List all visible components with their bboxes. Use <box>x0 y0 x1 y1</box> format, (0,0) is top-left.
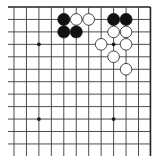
star-point-icon <box>37 117 41 121</box>
white-stone[interactable] <box>95 39 107 51</box>
black-stone[interactable] <box>70 26 82 38</box>
white-stone[interactable] <box>120 63 132 75</box>
white-stone[interactable] <box>120 26 132 38</box>
white-stone[interactable] <box>83 14 95 26</box>
white-stone[interactable] <box>70 14 82 26</box>
white-stone[interactable] <box>108 26 120 38</box>
star-point-icon <box>112 117 116 121</box>
white-stone[interactable] <box>108 51 120 63</box>
star-point-icon <box>112 42 116 46</box>
star-point-icon <box>37 42 41 46</box>
black-stone[interactable] <box>120 13 132 25</box>
white-stone[interactable] <box>120 39 132 51</box>
black-stone[interactable] <box>58 13 70 25</box>
go-board[interactable] <box>0 0 156 163</box>
black-stone[interactable] <box>58 26 70 38</box>
black-stone[interactable] <box>108 13 120 25</box>
